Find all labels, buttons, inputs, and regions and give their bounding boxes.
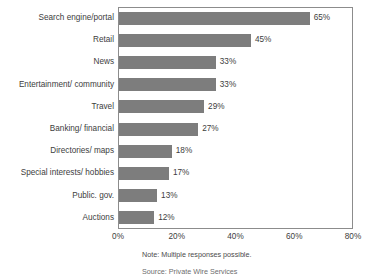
- category-label: Public. gov.: [0, 191, 114, 201]
- bar: [119, 56, 216, 69]
- table-row: Directories/ maps 18%: [0, 140, 368, 162]
- bar: [119, 211, 154, 224]
- table-row: Public. gov. 13%: [0, 185, 368, 207]
- value-label: 12%: [158, 213, 174, 223]
- value-label: 65%: [314, 13, 330, 23]
- category-label: News: [0, 57, 114, 67]
- table-row: Travel 29%: [0, 96, 368, 118]
- category-label: Directories/ maps: [0, 146, 114, 156]
- chart-source: Source: Private Wire Services: [142, 267, 237, 276]
- value-label: 33%: [220, 57, 236, 67]
- bar-wrapper: 13%: [119, 185, 353, 207]
- bar: [119, 34, 251, 47]
- table-row: Banking/ financial 27%: [0, 118, 368, 140]
- category-label: Entertainment/ community: [0, 80, 114, 90]
- x-axis-labels: 0% 20% 40% 60% 80%: [118, 232, 353, 244]
- value-label: 33%: [220, 80, 236, 90]
- bar-wrapper: 29%: [119, 96, 353, 118]
- bar: [119, 123, 198, 136]
- bar: [119, 12, 310, 25]
- bar-wrapper: 17%: [119, 162, 353, 184]
- bar-wrapper: 65%: [119, 7, 353, 29]
- table-row: News 33%: [0, 51, 368, 73]
- table-row: Special interests/ hobbies 17%: [0, 162, 368, 184]
- x-tick-label: 0%: [112, 232, 124, 241]
- bar-wrapper: 33%: [119, 74, 353, 96]
- x-tick-label: 60%: [286, 232, 302, 241]
- bar-wrapper: 18%: [119, 140, 353, 162]
- chart-note: Note: Multiple responses possible.: [142, 250, 251, 259]
- value-label: 18%: [176, 146, 192, 156]
- bar-rows: Search engine/portal 65% Retail 45% News…: [0, 7, 368, 229]
- table-row: Retail 45%: [0, 29, 368, 51]
- bar-wrapper: 12%: [119, 207, 353, 229]
- value-label: 29%: [208, 102, 224, 112]
- bar-wrapper: 27%: [119, 118, 353, 140]
- category-label: Travel: [0, 102, 114, 112]
- category-label: Special interests/ hobbies: [0, 168, 114, 178]
- bar: [119, 189, 157, 202]
- value-label: 27%: [202, 124, 218, 134]
- x-tick-label: 20%: [169, 232, 185, 241]
- table-row: Entertainment/ community 33%: [0, 74, 368, 96]
- bar-chart-figure: Search engine/portal 65% Retail 45% News…: [0, 0, 368, 277]
- bar: [119, 100, 204, 113]
- bar-wrapper: 33%: [119, 51, 353, 73]
- value-label: 45%: [255, 35, 271, 45]
- value-label: 17%: [173, 168, 189, 178]
- table-row: Auctions 12%: [0, 207, 368, 229]
- value-label: 13%: [161, 191, 177, 201]
- category-label: Auctions: [0, 213, 114, 223]
- bar: [119, 167, 169, 180]
- x-tick-label: 40%: [227, 232, 243, 241]
- category-label: Banking/ financial: [0, 124, 114, 134]
- bar-wrapper: 45%: [119, 29, 353, 51]
- bar: [119, 145, 172, 158]
- x-tick-label: 80%: [345, 232, 361, 241]
- category-label: Retail: [0, 35, 114, 45]
- table-row: Search engine/portal 65%: [0, 7, 368, 29]
- bar: [119, 78, 216, 91]
- category-label: Search engine/portal: [0, 13, 114, 23]
